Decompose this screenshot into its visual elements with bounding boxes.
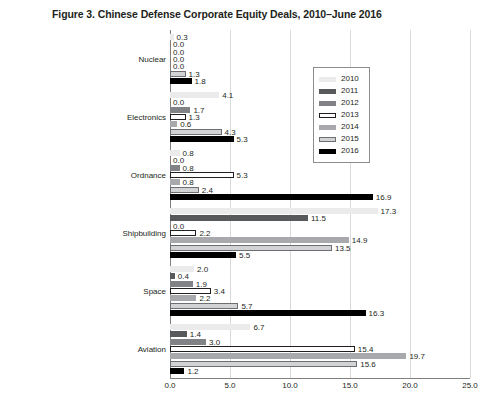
bar-row: 0.8 [170,179,470,185]
bar-row: 6.7 [170,324,470,330]
x-axis-tick-label: 20.0 [402,381,418,390]
bar-row: 2.2 [170,295,470,301]
legend-item-2013[interactable]: 2013 [319,109,364,121]
legend-item-2014[interactable]: 2014 [319,121,364,133]
category-label-space: Space [143,287,166,296]
figure-chart-container: Figure 3. Chinese Defense Corporate Equi… [0,0,485,409]
bar-value-label: 0.0 [173,221,184,230]
legend-item-2016[interactable]: 2016 [319,145,364,157]
bar-row: 0.0 [170,49,470,55]
bar-value-label: 2.0 [197,265,208,274]
bar-value-label: 5.3 [237,134,248,143]
bar-shipbuilding-2016[interactable] [170,252,236,258]
bar-nuclear-2016[interactable] [170,78,192,84]
bar-row: 14.9 [170,237,470,243]
bar-ordnance-2014[interactable] [170,179,180,185]
bar-value-label: 15.6 [360,359,376,368]
legend-swatch-2015 [319,137,336,142]
bar-shipbuilding-2014[interactable] [170,237,349,243]
bar-ordnance-2012[interactable] [170,165,180,171]
bar-row: 2.2 [170,230,470,236]
bar-aviation-2010[interactable] [170,324,250,330]
legend-label-2010: 2010 [341,75,359,83]
category-label-nuclear: Nuclear [138,55,166,64]
bar-value-label: 14.9 [352,236,368,245]
bar-value-label: 0.0 [173,98,184,107]
bar-value-label: 4.3 [225,127,236,136]
bar-ordnance-2015[interactable] [170,187,199,193]
bar-row: 0.0 [170,56,470,62]
bar-space-2012[interactable] [170,281,193,287]
bar-ordnance-2013[interactable] [170,172,234,178]
x-axis-tick-label: 10.0 [282,381,298,390]
bar-space-2014[interactable] [170,295,196,301]
x-axis-tick-label: 25.0 [462,381,478,390]
bar-value-label: 16.9 [376,192,392,201]
legend-swatch-2010 [319,77,336,82]
bar-value-label: 16.3 [369,308,385,317]
bar-aviation-2013[interactable] [170,346,355,352]
bar-shipbuilding-2013[interactable] [170,230,196,236]
bar-shipbuilding-2015[interactable] [170,245,332,251]
category-label-ordnance: Ordnance [131,171,166,180]
bar-row: 16.3 [170,310,470,316]
bar-value-label: 19.7 [409,352,425,361]
bar-aviation-2011[interactable] [170,331,187,337]
bar-row: 0.4 [170,273,470,279]
bar-row: 2.0 [170,266,470,272]
bar-value-label: 3.0 [209,337,220,346]
legend-swatch-2011 [319,89,336,94]
bar-electronics-2012[interactable] [170,107,190,113]
bar-electronics-2015[interactable] [170,129,222,135]
x-axis-tick-label: 0.0 [164,381,175,390]
legend-item-2012[interactable]: 2012 [319,97,364,109]
bar-electronics-2016[interactable] [170,136,234,142]
legend-item-2011[interactable]: 2011 [319,85,364,97]
category-label-electronics: Electronics [127,113,166,122]
bar-value-label: 1.8 [195,76,206,85]
bar-nuclear-2015[interactable] [170,71,186,77]
bar-row: 1.2 [170,368,470,374]
bar-value-label: 15.4 [358,345,374,354]
legend-label-2013: 2013 [341,111,359,119]
bar-electronics-2014[interactable] [170,121,177,127]
legend-swatch-2014 [319,125,336,130]
legend-swatch-2012 [319,101,336,106]
legend-swatch-2013 [319,113,336,118]
bar-aviation-2016[interactable] [170,368,184,374]
bar-row: 5.3 [170,172,470,178]
x-axis-tick-label: 15.0 [342,381,358,390]
x-axis-line [170,378,470,379]
bar-value-label: 5.3 [237,171,248,180]
bar-value-label: 13.5 [335,243,351,252]
legend-item-2015[interactable]: 2015 [319,133,364,145]
bar-value-label: 0.6 [180,120,191,129]
bar-value-label: 6.7 [253,323,264,332]
chart-legend: 2010201120122013201420152016 [313,67,370,163]
bar-row: 0.3 [170,34,470,40]
bar-ordnance-2016[interactable] [170,194,373,200]
bar-value-label: 5.5 [239,250,250,259]
bar-shipbuilding-2011[interactable] [170,215,308,221]
bar-value-label: 0.8 [183,178,194,187]
legend-swatch-2016 [319,149,336,154]
bar-aviation-2012[interactable] [170,339,206,345]
bar-row: 2.4 [170,187,470,193]
bar-row: 11.5 [170,215,470,221]
bar-group: Aviation6.71.43.015.419.715.61.2 [170,320,470,378]
bar-value-label: 0.8 [183,163,194,172]
bar-space-2016[interactable] [170,310,366,316]
bar-shipbuilding-2010[interactable] [170,208,378,214]
bar-value-label: 2.2 [199,294,210,303]
bar-space-2011[interactable] [170,273,175,279]
bar-value-label: 0.4 [178,272,189,281]
bar-value-label: 17.3 [381,207,397,216]
x-axis-tick-label: 5.0 [224,381,235,390]
legend-item-2010[interactable]: 2010 [319,73,364,85]
bar-row: 0.0 [170,223,470,229]
category-label-aviation: Aviation [138,345,166,354]
bar-group: Shipbuilding17.311.50.02.214.913.55.5 [170,204,470,262]
bar-row: 16.9 [170,194,470,200]
bar-space-2015[interactable] [170,303,238,309]
legend-label-2011: 2011 [341,87,358,95]
